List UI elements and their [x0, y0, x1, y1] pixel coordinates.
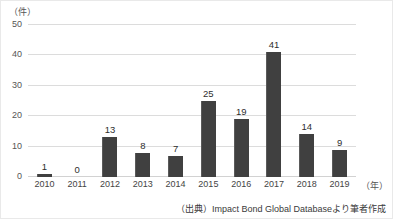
bar-value-label: 0 [75, 164, 80, 175]
y-axis-tick-label: 10 [12, 141, 22, 151]
bar-group[interactable]: 8 [126, 25, 159, 177]
source-caption: （出典）Impact Bond Global Databaseより筆者作成 [176, 202, 386, 215]
bar-series: 101387251941149 [28, 25, 356, 177]
bar[interactable] [266, 52, 281, 177]
x-axis-tick-label: 2014 [159, 179, 192, 189]
y-axis-tick-label: 50 [12, 19, 22, 29]
bar-value-label: 41 [269, 39, 280, 50]
bar-value-label: 1 [42, 161, 47, 172]
x-axis-tick-label: 2010 [28, 179, 61, 189]
bar-group[interactable]: 1 [28, 25, 61, 177]
bar-value-label: 9 [337, 137, 342, 148]
bar-group[interactable]: 14 [290, 25, 323, 177]
bar[interactable] [234, 119, 249, 177]
bar-group[interactable]: 13 [94, 25, 127, 177]
bar-group[interactable]: 9 [323, 25, 356, 177]
y-axis-tick-label: 40 [12, 49, 22, 59]
x-axis-tick-label: 2019 [323, 179, 356, 189]
x-axis-ticks: 2010201120122013201420152016201720182019 [28, 179, 356, 189]
x-axis-unit-label: （年） [361, 179, 388, 192]
x-axis-tick-label: 2015 [192, 179, 225, 189]
bar-group[interactable]: 0 [61, 25, 94, 177]
bar[interactable] [299, 134, 314, 177]
bar-value-label: 8 [140, 140, 145, 151]
bar-chart: （件） 01020304050 101387251941149 20102011… [1, 1, 392, 218]
bar[interactable] [201, 101, 216, 177]
y-axis-unit-label: （件） [9, 5, 36, 18]
x-axis-tick-label: 2018 [290, 179, 323, 189]
x-axis-tick-label: 2017 [258, 179, 291, 189]
bar[interactable] [135, 153, 150, 177]
y-axis-tick-label: 30 [12, 80, 22, 90]
bar-value-label: 14 [301, 121, 312, 132]
bar[interactable] [37, 174, 52, 177]
x-axis-tick-label: 2012 [94, 179, 127, 189]
bar-value-label: 13 [105, 124, 116, 135]
bar-group[interactable]: 25 [192, 25, 225, 177]
bar-value-label: 7 [173, 143, 178, 154]
x-axis-tick-label: 2013 [126, 179, 159, 189]
bar[interactable] [102, 137, 117, 177]
bar-group[interactable]: 19 [225, 25, 258, 177]
y-axis-tick-label: 0 [17, 171, 22, 181]
bar-value-label: 19 [236, 106, 247, 117]
bar-group[interactable]: 41 [258, 25, 291, 177]
y-axis-tick-label: 20 [12, 110, 22, 120]
bar[interactable] [168, 156, 183, 177]
bar-value-label: 25 [203, 88, 214, 99]
bar-group[interactable]: 7 [159, 25, 192, 177]
x-axis-tick-label: 2016 [225, 179, 258, 189]
x-axis-tick-label: 2011 [61, 179, 94, 189]
plot-area: 01020304050 101387251941149 [28, 25, 356, 177]
bar[interactable] [332, 150, 347, 177]
